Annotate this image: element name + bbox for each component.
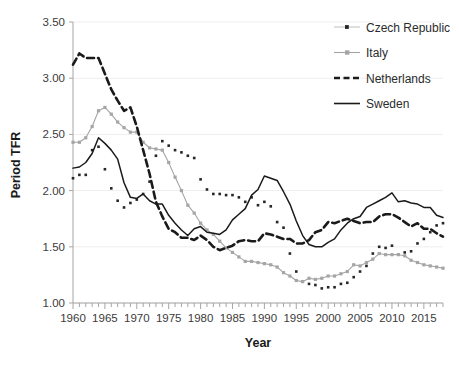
legend-swatch-marker (345, 25, 349, 29)
x-tick-label: 1960 (60, 312, 86, 324)
x-tick-label: 1965 (92, 312, 118, 324)
data-point-marker (384, 247, 387, 250)
y-tick-label: 3.50 (43, 16, 65, 28)
x-tick-label: 1985 (220, 312, 246, 324)
chart-legend: Czech RepublicItalyNetherlandsSweden (334, 21, 450, 112)
data-point-marker (187, 154, 190, 157)
legend-label: Sweden (366, 97, 409, 111)
data-point-marker (429, 231, 432, 234)
data-point-marker (276, 265, 279, 268)
data-point-marker (122, 126, 125, 129)
y-tick-label: 1.00 (43, 297, 65, 309)
data-point-marker (339, 272, 342, 275)
data-point-marker (397, 253, 400, 256)
data-point-marker (167, 161, 170, 164)
y-tick-label: 1.50 (43, 241, 65, 253)
data-point-marker (256, 261, 259, 264)
data-point-marker (333, 274, 336, 277)
legend-item-sweden[interactable]: Sweden (334, 97, 409, 111)
x-tick-label: 2010 (379, 312, 405, 324)
data-point-marker (429, 264, 432, 267)
data-point-marker (378, 246, 381, 249)
data-point-marker (423, 238, 426, 241)
x-tick-label: 2015 (411, 312, 437, 324)
data-point-marker (403, 251, 406, 254)
data-point-marker (225, 194, 228, 197)
data-point-marker (212, 193, 215, 196)
data-point-marker (289, 252, 292, 255)
data-point-marker (84, 136, 87, 139)
data-point-marker (154, 147, 157, 150)
data-point-marker (403, 254, 406, 257)
data-point-marker (123, 206, 126, 209)
legend-item-netherlands[interactable]: Netherlands (334, 72, 431, 86)
x-tick-label: 1980 (188, 312, 214, 324)
data-point-marker (390, 253, 393, 256)
data-point-marker (97, 109, 100, 112)
data-series (71, 53, 444, 289)
data-point-marker (352, 276, 355, 279)
x-tick-label: 1975 (156, 312, 182, 324)
data-point-marker (244, 201, 247, 204)
data-point-marker (276, 221, 279, 224)
data-point-marker (320, 277, 323, 280)
data-point-marker (231, 194, 234, 197)
data-point-marker (295, 279, 298, 282)
data-point-marker (441, 267, 444, 270)
data-point-marker (308, 283, 311, 286)
data-point-marker (333, 286, 336, 289)
data-point-marker (180, 189, 183, 192)
x-axis-tick-labels: 1960196519701975198019851990199520002005… (60, 312, 436, 324)
data-point-marker (378, 252, 381, 255)
data-point-marker (193, 211, 196, 214)
data-point-marker (314, 284, 317, 287)
data-point-marker (129, 131, 132, 134)
data-point-marker (193, 157, 196, 160)
y-tick-label: 2.50 (43, 128, 65, 140)
y-axis-title: Period TFR (9, 132, 23, 199)
data-point-marker (391, 244, 394, 247)
data-point-marker (110, 187, 113, 190)
legend-label: Italy (366, 46, 388, 60)
legend-item-italy[interactable]: Italy (334, 46, 388, 60)
data-point-marker (116, 120, 119, 123)
data-point-marker (116, 199, 119, 202)
data-point-marker (244, 260, 247, 263)
data-point-marker (78, 141, 81, 144)
data-point-marker (442, 222, 445, 225)
data-point-marker (327, 274, 330, 277)
x-tick-label: 2000 (315, 312, 341, 324)
x-tick-label: 1970 (124, 312, 150, 324)
data-point-marker (206, 188, 209, 191)
data-point-marker (148, 146, 151, 149)
legend-swatch-marker (345, 50, 349, 54)
data-point-marker (263, 262, 266, 265)
data-point-marker (301, 280, 304, 283)
data-point-marker (295, 270, 298, 273)
data-point-marker (282, 271, 285, 274)
tfr-line-chart: 1.001.502.002.503.003.50 196019651970197… (0, 0, 459, 370)
data-point-marker (237, 255, 240, 258)
data-point-marker (410, 259, 413, 262)
x-tick-label: 2005 (347, 312, 373, 324)
data-point-marker (359, 270, 362, 273)
data-point-marker (167, 144, 170, 147)
data-point-marker (435, 224, 438, 227)
data-point-marker (78, 174, 81, 177)
data-point-marker (103, 106, 106, 109)
data-point-marker (269, 205, 272, 208)
data-point-marker (71, 141, 74, 144)
axes (69, 22, 443, 309)
legend-item-czech-republic[interactable]: Czech Republic (334, 21, 450, 35)
data-point-marker (186, 204, 189, 207)
data-point-marker (422, 263, 425, 266)
data-point-marker (180, 151, 183, 154)
y-tick-label: 2.00 (43, 185, 65, 197)
data-point-marker (263, 201, 266, 204)
data-point-marker (372, 252, 375, 255)
data-point-marker (346, 281, 349, 284)
data-point-marker (91, 125, 94, 128)
data-point-marker (307, 277, 310, 280)
gridlines (73, 22, 443, 303)
data-point-marker (435, 265, 438, 268)
